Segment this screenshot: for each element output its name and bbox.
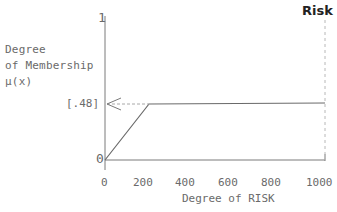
y-tick-0: 0 bbox=[96, 151, 104, 166]
x-tick-0: 0 bbox=[101, 176, 108, 189]
x-tick-800: 800 bbox=[261, 176, 281, 189]
y-tick-1: 1 bbox=[98, 10, 106, 25]
x-tick-400: 400 bbox=[175, 176, 195, 189]
x-tick-1000: 1000 bbox=[306, 176, 333, 189]
chart-title: Risk bbox=[302, 3, 333, 18]
membership-series-line bbox=[105, 103, 325, 160]
y-marker-048: [.48] bbox=[66, 97, 99, 110]
chart-plot bbox=[0, 0, 337, 212]
y-axis-label-line2: of Membership bbox=[5, 58, 94, 74]
x-tick-200: 200 bbox=[133, 176, 153, 189]
y-axis-label: Degree of Membership μ(x) bbox=[5, 42, 94, 90]
y-axis-label-line3: μ(x) bbox=[5, 74, 94, 90]
x-tick-600: 600 bbox=[218, 176, 238, 189]
y-axis-label-line1: Degree bbox=[5, 42, 94, 58]
x-axis-label: Degree of RISK bbox=[182, 192, 275, 205]
